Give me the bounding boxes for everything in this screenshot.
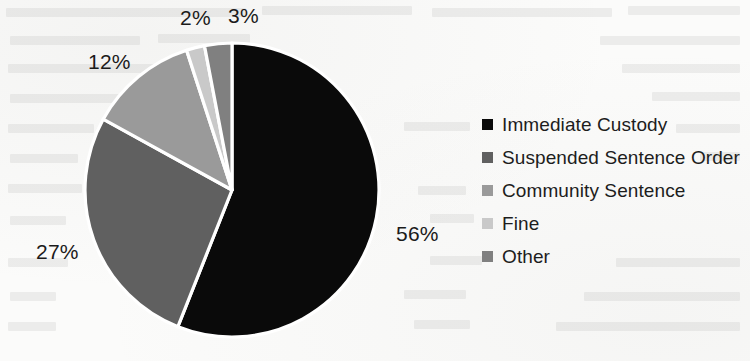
- pie-label-other: 3%: [228, 4, 259, 28]
- pie-label-immediate-custody: 56%: [396, 222, 439, 246]
- legend-swatch-icon: [482, 218, 493, 229]
- legend-swatch-icon: [482, 185, 493, 196]
- chart-legend: Immediate Custody Suspended Sentence Ord…: [482, 113, 740, 278]
- legend-label: Immediate Custody: [502, 113, 667, 137]
- pie-label-suspended-sentence-order: 27%: [36, 240, 79, 264]
- legend-item-suspended-sentence-order: Suspended Sentence Order: [482, 146, 740, 170]
- pie-label-fine: 2%: [180, 6, 211, 30]
- pie-slice-group: [85, 43, 379, 337]
- legend-swatch-icon: [482, 251, 493, 262]
- legend-label: Fine: [502, 212, 539, 236]
- legend-label: Community Sentence: [502, 179, 685, 203]
- pie-chart-page: 56% 27% 12% 2% 3% Immediate Custody Susp…: [0, 0, 750, 361]
- pie-svg: [0, 0, 470, 361]
- pie-chart-graphic: [0, 0, 470, 361]
- legend-item-other: Other: [482, 245, 740, 269]
- pie-label-community-sentence: 12%: [88, 50, 131, 74]
- legend-swatch-icon: [482, 119, 493, 130]
- legend-label: Other: [502, 245, 550, 269]
- legend-item-fine: Fine: [482, 212, 740, 236]
- legend-swatch-icon: [482, 152, 493, 163]
- legend-item-immediate-custody: Immediate Custody: [482, 113, 740, 137]
- legend-item-community-sentence: Community Sentence: [482, 179, 740, 203]
- legend-label: Suspended Sentence Order: [502, 146, 740, 170]
